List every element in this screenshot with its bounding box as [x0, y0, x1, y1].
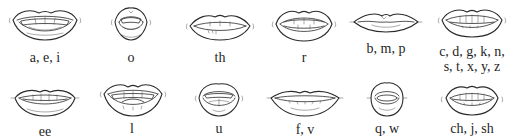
viseme-label: r [302, 50, 307, 65]
viseme-label-line-2: s, t, x, y, z [444, 59, 501, 74]
viseme-c-d-g-k-n-s-t-x-y-z: c, d, g, k, n, s, t, x, y, z [429, 4, 515, 74]
viseme-ch-j-sh: ch, j, sh [429, 82, 515, 136]
mouth-teeth-on-lower-lip-icon [263, 88, 347, 118]
viseme-u: u [176, 80, 262, 136]
viseme-r: r [261, 4, 347, 65]
mouth-tongue-between-teeth-icon [178, 4, 262, 42]
viseme-label: a, e, i [30, 50, 60, 65]
viseme-label: th [215, 50, 226, 65]
viseme-q-w: q, w [344, 80, 430, 136]
mouth-teeth-together-protruded-icon [430, 82, 514, 116]
viseme-label: u [216, 121, 223, 136]
mouth-small-round-open-icon [177, 80, 261, 118]
viseme-label-line-1: c, d, g, k, n, [439, 44, 505, 59]
mouth-open-tongue-up-icon [90, 80, 174, 118]
viseme-chart: { "title": "Mouth shapes for letter soun… [0, 0, 515, 139]
mouth-open-teeth-showing-icon [262, 4, 346, 42]
viseme-a-e-i: a, e, i [2, 4, 88, 65]
viseme-l: l [89, 80, 175, 136]
mouth-round-open-icon [89, 4, 173, 42]
viseme-label: l [130, 121, 134, 136]
viseme-label: b, m, p [367, 41, 406, 56]
mouth-wide-smile-teeth-icon [3, 86, 87, 118]
mouth-wide-open-smile-icon [3, 4, 87, 42]
viseme-ee: ee [2, 86, 88, 139]
viseme-label: f, v [296, 122, 315, 137]
viseme-o: l o [88, 4, 174, 65]
viseme-label: q, w [375, 121, 399, 136]
mouth-teeth-together-smile-icon [430, 4, 514, 38]
viseme-b-m-p: b, m, p [343, 4, 429, 56]
viseme-label: ch, j, sh [450, 121, 494, 136]
viseme-label: ee [39, 124, 51, 139]
mouth-puckered-round-icon [345, 80, 429, 118]
mouth-closed-lips-icon [344, 4, 428, 34]
viseme-th: th [177, 4, 263, 65]
viseme-label: o [128, 50, 135, 65]
viseme-f-v: f, v [262, 88, 348, 137]
